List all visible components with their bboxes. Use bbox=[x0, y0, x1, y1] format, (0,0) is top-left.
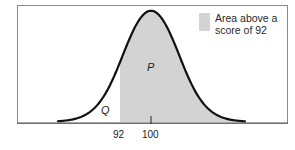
legend-swatch bbox=[199, 13, 210, 31]
tick-label-100: 100 bbox=[142, 129, 159, 140]
legend-line-1: Area above a bbox=[215, 12, 277, 24]
legend-label: Area above a score of 92 bbox=[215, 12, 277, 36]
legend-line-2: score of 92 bbox=[215, 24, 277, 36]
legend: Area above a score of 92 bbox=[199, 12, 277, 36]
region-label-p: P bbox=[147, 61, 154, 73]
region-label-q: Q bbox=[101, 104, 110, 116]
tick-label-92: 92 bbox=[113, 129, 124, 140]
